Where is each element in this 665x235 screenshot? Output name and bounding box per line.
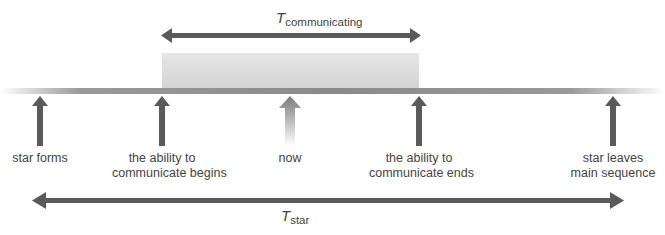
span-subscript: star bbox=[290, 214, 309, 226]
label-line: the ability to bbox=[369, 151, 469, 166]
ability-begins-arrow-icon bbox=[154, 96, 170, 146]
label-line: the ability to bbox=[112, 151, 212, 166]
event-label-star-leaves: star leaves main sequence bbox=[568, 151, 658, 181]
span-symbol: T bbox=[281, 207, 290, 224]
communicating-span-arrow bbox=[161, 28, 421, 43]
star-forms-arrow-icon bbox=[32, 96, 48, 146]
communicating-span-label: Tcommunicating bbox=[276, 9, 363, 28]
timeline-bar bbox=[0, 88, 665, 94]
label-line: star leaves bbox=[568, 151, 658, 166]
event-label-now: now bbox=[265, 151, 315, 166]
event-label-star-forms: star forms bbox=[0, 151, 80, 166]
ability-ends-arrow-icon bbox=[411, 96, 427, 146]
now-arrow-icon bbox=[279, 96, 301, 146]
star-leaves-arrow-icon bbox=[605, 96, 621, 146]
star-lifetime-span-arrow bbox=[32, 192, 624, 209]
span-symbol: T bbox=[276, 9, 285, 26]
label-line: communicate ends bbox=[369, 166, 469, 181]
label-line: now bbox=[265, 151, 315, 166]
label-line: main sequence bbox=[568, 166, 658, 181]
communication-window bbox=[162, 53, 419, 88]
star-lifetime-span-label: Tstar bbox=[281, 207, 309, 226]
event-label-ability-begins: the ability to communicate begins bbox=[112, 151, 212, 181]
span-subscript: communicating bbox=[285, 16, 362, 28]
label-line: star forms bbox=[0, 151, 80, 166]
label-line: communicate begins bbox=[112, 166, 212, 181]
timeline-diagram bbox=[0, 0, 665, 235]
event-label-ability-ends: the ability to communicate ends bbox=[369, 151, 469, 181]
